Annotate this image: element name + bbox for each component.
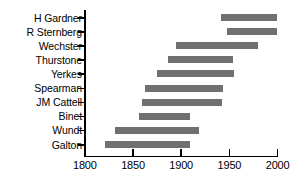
bar-binet: [139, 113, 191, 120]
x-axis-tick-2000: [277, 149, 279, 156]
category-label-r-sternberg: R Sternberg: [26, 27, 82, 38]
bar-wechster: [176, 42, 258, 49]
x-axis-label-2000: 2000: [266, 159, 290, 171]
y-axis-line: [84, 10, 86, 157]
x-axis-label-1800: 1800: [73, 159, 97, 171]
y-axis-tick-thurstone: [78, 59, 84, 61]
bar-galton: [105, 141, 190, 148]
x-axis-label-1950: 1950: [218, 159, 242, 171]
bar-jm-cattell: [142, 99, 223, 106]
x-axis-tick-1850: [132, 149, 134, 156]
x-axis-tick-1800: [84, 149, 86, 156]
y-axis-tick-galton: [78, 144, 84, 146]
y-axis-tick-spearman: [78, 88, 84, 90]
y-axis-tick-wechster: [78, 45, 84, 47]
bar-h-gardner: [221, 14, 277, 21]
y-axis-tick-r-sternberg: [78, 31, 84, 33]
bar-spearman: [145, 85, 224, 92]
category-label-spearman: Spearman: [34, 83, 82, 94]
y-axis-tick-binet: [78, 116, 84, 118]
y-axis-tick-h-gardner: [78, 17, 84, 19]
bar-wundt: [115, 127, 200, 134]
bar-yerkes: [157, 70, 234, 77]
x-axis-tick-1950: [229, 149, 231, 156]
plot-area: H Gardner R Sternberg Wechster Thurstone…: [0, 0, 300, 184]
y-axis-tick-wundt: [78, 130, 84, 132]
timeline-bar-chart: H Gardner R Sternberg Wechster Thurstone…: [0, 0, 300, 184]
x-axis-tick-1900: [180, 149, 182, 156]
bar-thurstone: [168, 56, 233, 63]
category-label-h-gardner: H Gardner: [34, 13, 82, 24]
y-axis-tick-yerkes: [78, 73, 84, 75]
x-axis-label-1900: 1900: [169, 159, 193, 171]
bar-r-sternberg: [227, 28, 277, 35]
y-axis-tick-jm-cattell: [78, 102, 84, 104]
category-label-thurstone: Thurstone: [36, 55, 82, 66]
x-axis-label-1850: 1850: [121, 159, 145, 171]
category-label-wechster: Wechster: [39, 41, 82, 52]
category-label-jm-cattell: JM Cattell: [36, 97, 82, 108]
